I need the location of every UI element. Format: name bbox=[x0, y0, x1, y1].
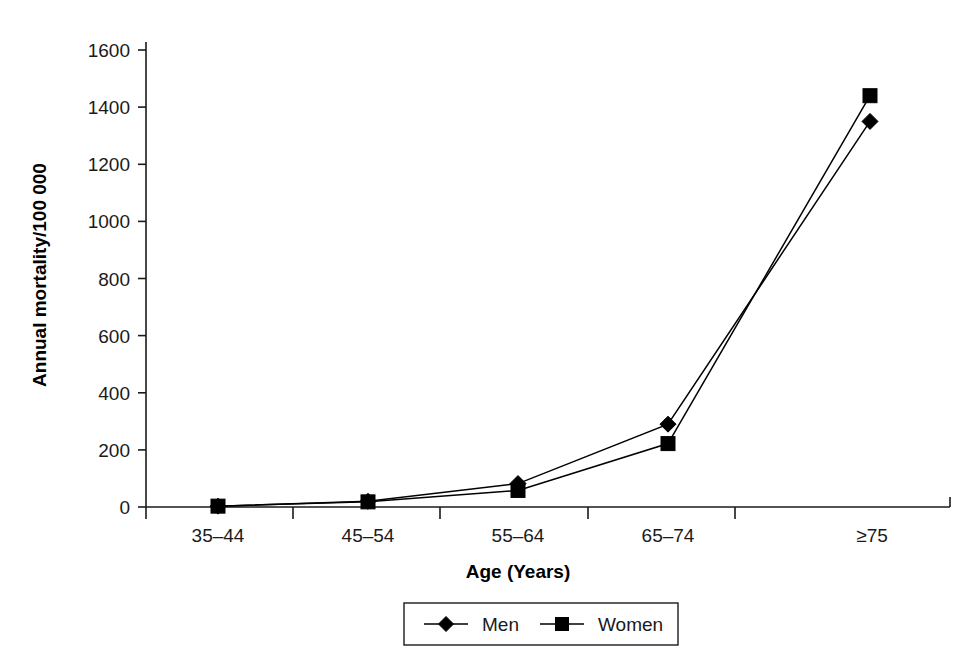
y-tick-label: 600 bbox=[98, 326, 130, 347]
square-marker-icon bbox=[556, 618, 569, 631]
series-women bbox=[211, 89, 877, 513]
y-tick-label: 1000 bbox=[88, 211, 130, 232]
data-point-square bbox=[863, 89, 877, 103]
data-point-square bbox=[361, 495, 375, 509]
chart-figure: 0 200 400 600 800 1000 1200 1400 1600 35… bbox=[0, 0, 979, 670]
data-point-square bbox=[511, 483, 525, 497]
x-category-label: 65–74 bbox=[642, 525, 695, 546]
chart-legend: Men Women bbox=[404, 603, 678, 645]
data-point-diamond bbox=[660, 416, 676, 432]
y-axis-tick-labels: 0 200 400 600 800 1000 1200 1400 1600 bbox=[88, 40, 130, 518]
y-tick-label: 200 bbox=[98, 440, 130, 461]
line-chart: 0 200 400 600 800 1000 1200 1400 1600 35… bbox=[0, 0, 979, 670]
x-category-label: 45–54 bbox=[342, 525, 395, 546]
y-tick-label: 1200 bbox=[88, 154, 130, 175]
legend-label-women: Women bbox=[598, 614, 663, 635]
legend-label-men: Men bbox=[482, 614, 519, 635]
series-line-women bbox=[218, 96, 870, 506]
y-tick-label: 0 bbox=[119, 497, 130, 518]
x-axis-title: Age (Years) bbox=[466, 561, 571, 582]
data-point-square bbox=[211, 499, 225, 513]
x-category-label: 35–44 bbox=[192, 525, 245, 546]
y-axis-title: Annual mortality/100 000 bbox=[29, 163, 50, 387]
y-tick-label: 1600 bbox=[88, 40, 130, 61]
series-layer bbox=[210, 89, 878, 514]
data-point-diamond bbox=[862, 113, 878, 129]
x-axis-category-labels: 35–44 45–54 55–64 65–74 ≥75 bbox=[192, 525, 888, 546]
series-line-men bbox=[218, 121, 870, 506]
data-point-square bbox=[661, 437, 675, 451]
y-axis-ticks bbox=[138, 50, 146, 507]
x-axis-ticks bbox=[146, 507, 735, 519]
y-tick-label: 1400 bbox=[88, 97, 130, 118]
series-men bbox=[210, 113, 878, 514]
y-tick-label: 400 bbox=[98, 383, 130, 404]
x-category-label: ≥75 bbox=[856, 525, 888, 546]
y-tick-label: 800 bbox=[98, 269, 130, 290]
x-category-label: 55–64 bbox=[492, 525, 545, 546]
